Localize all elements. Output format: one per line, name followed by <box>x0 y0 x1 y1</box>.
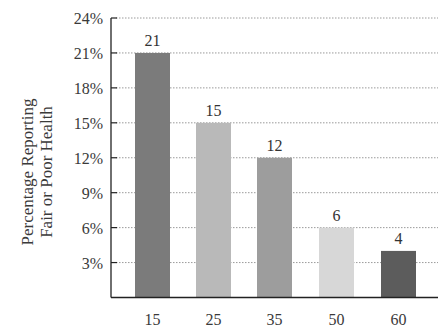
y-tick-label: 24% <box>74 10 103 27</box>
x-axis-ticks: 1525355060 <box>145 311 407 328</box>
bar-value-label: 12 <box>267 137 283 154</box>
y-axis-label: Percentage Reporting Fair or Poor Health <box>18 98 56 245</box>
svg-text:Percentage Reporting: Percentage Reporting <box>18 98 37 245</box>
x-tick-label: 35 <box>267 311 283 328</box>
x-tick-label: 60 <box>391 311 407 328</box>
bar-value-label: 21 <box>145 32 161 49</box>
x-tick-label: 15 <box>145 311 161 328</box>
bars: 21151264 <box>135 32 416 298</box>
y-tick-label: 9% <box>82 185 103 202</box>
svg-text:Fair or Poor Health: Fair or Poor Health <box>37 106 56 238</box>
bar-value-label: 15 <box>206 102 222 119</box>
y-tick-label: 21% <box>74 45 103 62</box>
bar-15 <box>135 53 170 298</box>
bar-value-label: 4 <box>395 230 403 247</box>
bar-value-label: 6 <box>333 207 341 224</box>
bar-60 <box>381 251 416 298</box>
y-tick-label: 3% <box>82 255 103 272</box>
x-tick-label: 25 <box>206 311 222 328</box>
bar-25 <box>196 123 231 298</box>
y-tick-label: 15% <box>74 115 103 132</box>
x-tick-label: 50 <box>329 311 345 328</box>
bar-50 <box>319 228 354 298</box>
y-tick-label: 6% <box>82 220 103 237</box>
y-tick-label: 18% <box>74 80 103 97</box>
y-tick-label: 12% <box>74 150 103 167</box>
bar-chart: Percentage Reporting Fair or Poor Health… <box>0 0 444 334</box>
bar-35 <box>257 158 292 298</box>
